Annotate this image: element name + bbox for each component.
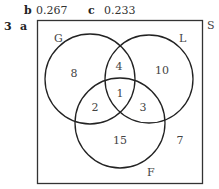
region-l-only: 10 — [155, 64, 169, 77]
region-g-l: 4 — [116, 60, 123, 73]
region-g-only: 8 — [71, 67, 78, 80]
venn-diagram: S G L F 8 10 4 1 2 3 15 7 — [0, 0, 219, 189]
region-g-l-f: 1 — [117, 87, 124, 100]
region-f-only: 15 — [113, 134, 127, 147]
circle-g — [45, 34, 135, 124]
circle-l — [105, 35, 193, 123]
region-g-f: 2 — [92, 101, 99, 114]
set-label-f: F — [147, 166, 155, 179]
region-outside: 7 — [177, 134, 184, 147]
universal-label: S — [207, 19, 215, 32]
set-label-g: G — [54, 32, 63, 45]
set-label-l: L — [179, 32, 187, 45]
region-l-f: 3 — [140, 101, 147, 114]
